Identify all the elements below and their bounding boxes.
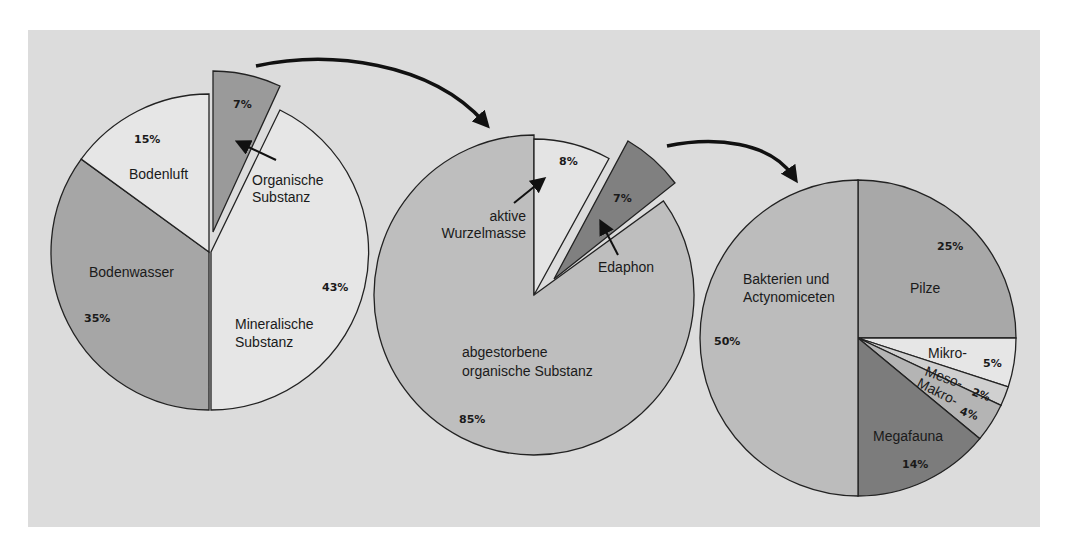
slice-pilze xyxy=(858,180,1016,338)
label-mikro: Mikro- xyxy=(928,345,967,361)
label-bakterien-1: Bakterien und xyxy=(743,271,829,287)
pie-chart-sequence: 7% Organische Substanz 15% Bodenluft Bod… xyxy=(0,0,1068,552)
pct-organische: 7% xyxy=(233,98,252,111)
pct-bodenwasser: 35% xyxy=(84,312,110,325)
label-bodenluft: Bodenluft xyxy=(129,166,188,182)
pie-soil-composition: 7% Organische Substanz 15% Bodenluft Bod… xyxy=(51,71,369,410)
label-organische-2: Substanz xyxy=(252,189,310,205)
label-pilze: Pilze xyxy=(910,280,941,296)
flow-arrow-2-icon xyxy=(667,142,793,176)
flow-arrow-1-icon xyxy=(256,60,484,122)
label-abgestorbene-1: abgestorbene xyxy=(462,344,548,360)
label-mineralische-1: Mineralische xyxy=(235,316,314,332)
label-mineralische-2: Substanz xyxy=(235,334,293,350)
label-wurzelmasse-2: Wurzelmasse xyxy=(441,225,526,241)
pie-edaphon-composition: 25% Pilze Mikro- 5% Meso- 2% Makro- 4% M… xyxy=(700,180,1016,496)
label-edaphon: Edaphon xyxy=(598,259,654,275)
label-abgestorbene-2: organische Substanz xyxy=(462,363,593,379)
label-organische-1: Organische xyxy=(252,172,324,188)
label-wurzelmasse-1: aktive xyxy=(489,208,526,224)
label-bakterien-2: Actynomiceten xyxy=(743,289,835,305)
pct-abgestorbene: 85% xyxy=(459,413,485,426)
pie-organic-matter: 8% aktive Wurzelmasse 7% Edaphon abgesto… xyxy=(374,135,694,455)
pct-megafauna: 14% xyxy=(902,458,928,471)
label-bodenwasser: Bodenwasser xyxy=(89,264,174,280)
pct-edaphon: 7% xyxy=(613,192,632,205)
pct-mineralische: 43% xyxy=(322,281,348,294)
pct-mikro: 5% xyxy=(983,357,1002,370)
pct-pilze: 25% xyxy=(937,240,963,253)
label-megafauna: Megafauna xyxy=(873,428,943,444)
pct-wurzelmasse: 8% xyxy=(559,155,578,168)
pct-bodenluft: 15% xyxy=(134,133,160,146)
pct-bakterien: 50% xyxy=(714,335,740,348)
